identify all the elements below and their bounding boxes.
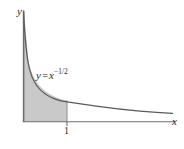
equation-exponent: −1/2 [54,67,68,76]
x-axis-label: x [172,116,177,127]
equation-equals-sign: = [41,69,49,81]
y-axis-label: y [17,6,22,17]
calculus-figure: y x 1 y=x−1/2 [0,0,184,149]
x-tick-label-1: 1 [64,126,69,136]
plot-area [0,0,184,149]
curve-equation-label: y=x−1/2 [36,68,68,81]
